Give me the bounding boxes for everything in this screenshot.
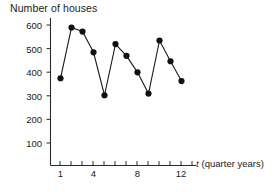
data-series-markers — [57, 24, 184, 98]
y-tick-label-200: 200 — [16, 114, 42, 125]
data-point — [79, 28, 85, 34]
x-axis-variable: t — [196, 158, 199, 169]
data-point — [123, 53, 129, 59]
data-series-line — [61, 28, 182, 96]
data-point — [167, 58, 173, 64]
data-point — [178, 78, 184, 84]
data-point — [112, 41, 118, 47]
x-axis-unit: (quarter years) — [202, 158, 264, 169]
x-tick-label-12: 12 — [174, 168, 188, 179]
y-tick-label-300: 300 — [16, 91, 42, 102]
x-tick-marks — [60, 161, 192, 166]
x-tick-label-4: 4 — [89, 168, 98, 179]
data-point — [90, 49, 96, 55]
data-point — [134, 69, 140, 75]
data-point — [101, 92, 107, 98]
x-tick-label-8: 8 — [133, 168, 142, 179]
y-tick-label-100: 100 — [16, 138, 42, 149]
x-axis-title: t (quarter years) — [196, 158, 264, 169]
x-tick-label-1: 1 — [56, 168, 65, 179]
y-tick-marks — [47, 25, 51, 143]
y-tick-label-400: 400 — [16, 67, 42, 78]
data-point — [68, 24, 74, 30]
data-point — [156, 37, 162, 43]
y-tick-label-500: 500 — [16, 44, 42, 55]
data-point — [57, 75, 63, 81]
data-point — [145, 91, 151, 97]
chart-figure: Number of houses — [0, 0, 274, 192]
y-tick-label-600: 600 — [16, 20, 42, 31]
